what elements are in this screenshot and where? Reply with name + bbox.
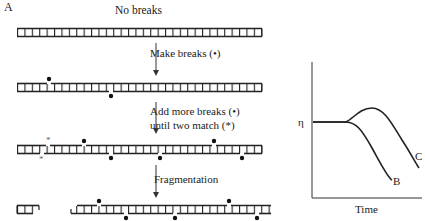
series-label-b: B [393,175,400,187]
arrow-make-breaks [153,43,159,76]
break-dot [227,199,231,203]
series-b-line [313,122,392,180]
small-fragment [17,206,39,214]
arrow-fragmentation [153,165,159,198]
match-star: * [39,154,44,164]
series-label-c: C [415,150,422,162]
dna-row-first-breaks [17,77,262,98]
arrow-add-more-breaks [153,102,159,134]
break-dot [47,77,51,81]
match-star: * [46,135,51,145]
break-dot [97,199,101,203]
break-dot [158,156,162,160]
viscosity-chart [312,62,422,198]
break-dot [109,156,113,160]
diagram-canvas: * * [0,0,425,221]
large-fragment [71,199,271,220]
x-axis-label-time: Time [355,203,378,215]
break-dot [124,216,128,220]
break-dot [109,94,113,98]
break-dot [255,216,259,220]
break-dot [82,139,86,143]
break-dot [173,216,177,220]
dna-row-fragments [17,199,271,220]
dna-row-more-breaks: * * [17,135,262,164]
break-dot [240,156,244,160]
dna-row-intact [17,29,262,37]
break-dot [212,139,216,143]
y-axis-label-eta: η [298,116,304,128]
